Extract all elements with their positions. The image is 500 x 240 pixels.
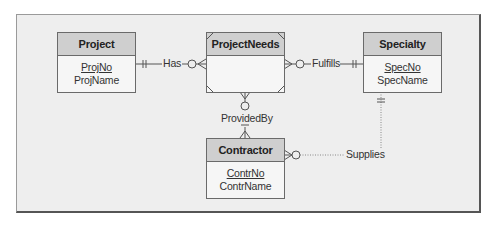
entity-specialty[interactable]: Specialty SpecNo SpecName (363, 32, 442, 93)
primary-key-attribute: SpecNo (364, 61, 441, 74)
associative-corner-marks (206, 32, 285, 93)
entity-contractor[interactable]: Contractor ContrNo ContrName (206, 138, 285, 199)
entity-title: Contractor (207, 139, 284, 162)
primary-key-attribute: ContrNo (207, 167, 284, 180)
entity-projectneeds[interactable]: ProjectNeeds (206, 32, 285, 93)
attribute: ProjName (58, 74, 135, 87)
entity-project[interactable]: Project ProjNo ProjName (57, 32, 136, 93)
relationship-label-providedby: ProvidedBy (221, 112, 273, 124)
attribute: SpecName (364, 74, 441, 87)
relationship-label-supplies: Supplies (346, 148, 385, 160)
relationship-label-fulfills: Fulfills (312, 57, 340, 69)
attribute: ContrName (207, 180, 284, 193)
entity-title: Project (58, 33, 135, 56)
relationship-label-has: Has (163, 57, 181, 69)
entity-title: Specialty (364, 33, 441, 56)
primary-key-attribute: ProjNo (58, 61, 135, 74)
